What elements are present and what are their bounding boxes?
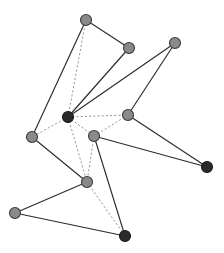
graph-edge-n3-n8: [68, 117, 87, 182]
graph-edge-n9-n10: [15, 213, 125, 236]
graph-canvas: [0, 0, 224, 253]
graph-edge-n0-n1: [86, 20, 129, 48]
graph-edge-n8-n9: [15, 182, 87, 213]
graph-edge-n5-n7: [94, 136, 207, 167]
graph-edge-n6-n8: [32, 137, 87, 182]
edge-layer: [15, 20, 207, 236]
graph-node-n10[interactable]: [120, 231, 131, 242]
graph-edge-n2-n3: [68, 43, 175, 117]
graph-edge-n5-n10: [94, 136, 125, 236]
graph-node-n7[interactable]: [202, 162, 213, 173]
graph-edge-n5-n8: [87, 136, 94, 182]
graph-node-n3[interactable]: [63, 112, 74, 123]
graph-node-n2[interactable]: [170, 38, 181, 49]
graph-node-n9[interactable]: [10, 208, 21, 219]
graph-edge-n1-n3: [68, 48, 129, 117]
graph-figure: [0, 0, 224, 253]
graph-edge-n0-n3: [68, 20, 86, 117]
node-layer: [10, 15, 213, 242]
graph-node-n6[interactable]: [27, 132, 38, 143]
graph-node-n1[interactable]: [124, 43, 135, 54]
graph-edge-n4-n7: [128, 115, 207, 167]
graph-node-n5[interactable]: [89, 131, 100, 142]
graph-edge-n8-n10: [87, 182, 125, 236]
graph-node-n8[interactable]: [82, 177, 93, 188]
graph-edge-n2-n4: [128, 43, 175, 115]
graph-node-n4[interactable]: [123, 110, 134, 121]
graph-edge-n0-n6: [32, 20, 86, 137]
graph-node-n0[interactable]: [81, 15, 92, 26]
graph-edge-n3-n6: [32, 117, 68, 137]
graph-edge-n3-n4: [68, 115, 128, 117]
